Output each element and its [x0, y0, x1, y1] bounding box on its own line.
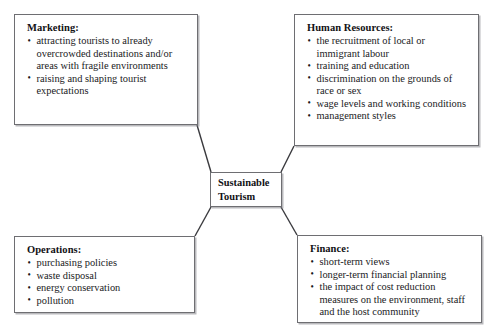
diagram-canvas: Marketing: attracting tourists to alread… [0, 0, 491, 335]
list-item: waste disposal [27, 270, 186, 283]
list-item: longer-term financial planning [310, 269, 473, 282]
node-finance: Finance: short-term views longer-term fi… [297, 235, 482, 323]
node-operations: Operations: purchasing policies waste di… [14, 236, 195, 313]
list-item: attracting tourists to already overcrowd… [27, 35, 189, 73]
node-marketing-title: Marketing: [27, 22, 189, 35]
node-marketing: Marketing: attracting tourists to alread… [14, 14, 198, 125]
list-item: pollution [27, 295, 186, 308]
node-finance-list: short-term views longer-term financial p… [310, 256, 473, 319]
list-item: the recruitment of local or immigrant la… [307, 35, 470, 60]
list-item: short-term views [310, 256, 473, 269]
list-item: training and education [307, 60, 470, 73]
node-human-resources-list: the recruitment of local or immigrant la… [307, 35, 470, 123]
connector-finance-to-center [281, 207, 297, 235]
list-item: energy conservation [27, 282, 186, 295]
node-human-resources-title: Human Resources: [307, 22, 470, 35]
list-item: management styles [307, 110, 470, 123]
center-label-line-1: Sustainable [211, 176, 269, 189]
center-label-line-2: Tourism [211, 190, 255, 203]
connector-marketing-to-center [197, 125, 211, 172]
node-human-resources: Human Resources: the recruitment of loca… [294, 14, 479, 146]
node-center-sustainable-tourism: Sustainable Tourism [210, 172, 282, 207]
list-item: wage levels and working conditions [307, 98, 470, 111]
list-item: the impact of cost reduction measures on… [310, 281, 473, 319]
node-operations-list: purchasing policies waste disposal energ… [27, 257, 186, 307]
connector-human-resources-to-center [281, 146, 294, 172]
connector-operations-to-center [195, 207, 211, 236]
node-marketing-list: attracting tourists to already overcrowd… [27, 35, 189, 98]
list-item: raising and shaping tourist expectations [27, 73, 189, 98]
node-operations-title: Operations: [27, 244, 186, 257]
node-finance-title: Finance: [310, 243, 473, 256]
list-item: purchasing policies [27, 257, 186, 270]
list-item: discrimination on the grounds of race or… [307, 73, 470, 98]
